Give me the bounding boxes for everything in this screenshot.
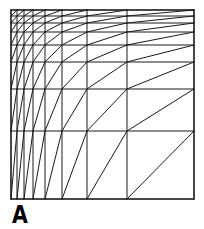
cell-diagonal	[33, 10, 45, 16]
cell-diagonal	[87, 131, 127, 199]
cell-diagonal	[24, 16, 33, 23]
cell-diagonal	[11, 89, 17, 131]
cell-diagonal	[11, 131, 17, 199]
cell-diagonal	[127, 16, 194, 23]
cell-diagonal	[127, 10, 194, 16]
cell-diagonal	[33, 131, 45, 199]
cell-diagonal	[24, 45, 33, 62]
cell-diagonal	[45, 10, 62, 16]
cell-diagonal	[45, 62, 62, 89]
cell-diagonal	[11, 45, 17, 62]
cell-diagonal-group	[11, 10, 194, 199]
cell-diagonal	[87, 62, 127, 89]
cell-diagonal	[11, 23, 17, 32]
cell-diagonal	[62, 32, 87, 45]
cell-diagonal	[127, 89, 194, 131]
cell-diagonal	[62, 62, 87, 89]
cell-diagonal	[45, 32, 62, 45]
cell-diagonal	[24, 23, 33, 32]
cell-diagonal	[33, 23, 45, 32]
cell-diagonal	[24, 32, 33, 45]
cell-diagonal	[17, 16, 24, 23]
cell-diagonal	[87, 16, 127, 23]
cell-diagonal	[17, 10, 24, 16]
cell-diagonal	[62, 131, 87, 199]
cell-diagonal	[45, 131, 62, 199]
cell-diagonal	[127, 131, 194, 199]
cell-diagonal	[33, 45, 45, 62]
cell-diagonal	[11, 16, 17, 23]
cell-diagonal	[127, 62, 194, 89]
cell-diagonal	[17, 23, 24, 32]
cell-diagonal	[45, 16, 62, 23]
cell-diagonal	[33, 32, 45, 45]
cell-diagonal	[11, 10, 17, 16]
cell-diagonal	[62, 10, 87, 16]
cell-diagonal	[45, 23, 62, 32]
cell-diagonal	[17, 131, 24, 199]
cell-diagonal	[87, 45, 127, 62]
cell-diagonal	[87, 32, 127, 45]
cell-diagonal	[11, 62, 17, 89]
figure-panel: A	[0, 0, 204, 229]
cell-diagonal	[127, 32, 194, 45]
cell-diagonal	[62, 89, 87, 131]
cell-diagonal	[24, 89, 33, 131]
cell-diagonal	[17, 62, 24, 89]
cell-diagonal	[17, 32, 24, 45]
cell-diagonal	[17, 89, 24, 131]
cell-diagonal	[87, 10, 127, 16]
cell-diagonal	[24, 62, 33, 89]
cell-diagonal	[127, 45, 194, 62]
cell-diagonal	[87, 89, 127, 131]
cell-diagonal	[127, 23, 194, 32]
cell-diagonal	[45, 89, 62, 131]
cell-diagonal	[62, 45, 87, 62]
cell-diagonal	[33, 16, 45, 23]
cell-diagonal	[33, 62, 45, 89]
cell-diagonal	[33, 89, 45, 131]
cell-diagonal	[24, 10, 33, 16]
cell-diagonal	[17, 45, 24, 62]
panel-label: A	[12, 203, 33, 227]
cell-diagonal	[45, 45, 62, 62]
cell-diagonal	[87, 23, 127, 32]
cell-diagonal	[62, 23, 87, 32]
cell-diagonal	[62, 16, 87, 23]
cell-diagonal	[24, 131, 33, 199]
cell-diagonal	[11, 32, 17, 45]
log-grid-diagram	[0, 0, 204, 229]
